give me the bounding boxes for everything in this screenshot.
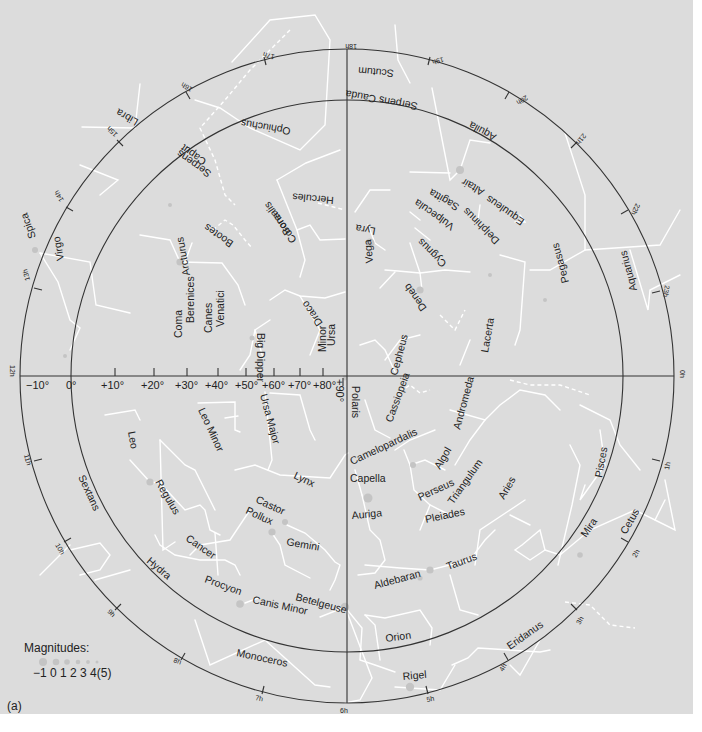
label-big-dipper: Big Dipper: [255, 333, 267, 383]
hour-5: 5h: [426, 695, 435, 703]
hour-1: 1h: [663, 461, 671, 470]
label-ursa-minor-2: Minor: [316, 325, 328, 352]
hour-6: 6h: [340, 707, 348, 714]
label-vega: Vega: [361, 239, 375, 264]
legend-dot-minus1: [39, 658, 47, 666]
label-capella: Capella: [350, 472, 386, 484]
dec-90: +90°: [334, 379, 346, 402]
label-polaris: Polaris: [350, 386, 362, 418]
dec-40: +40°: [205, 379, 228, 391]
legend-values: −1 0 1 2 3 4(5): [33, 666, 111, 680]
legend-dot-3: [86, 660, 90, 664]
dec-50: +50°: [235, 379, 258, 391]
dec-30: +30°: [175, 379, 198, 391]
label-canes-2: Venatici: [214, 290, 226, 327]
label-coma-2: Berenices: [184, 276, 196, 323]
hour-0: 0h: [679, 370, 686, 378]
dec-minus10: −10°: [26, 379, 49, 391]
legend-dot-0: [53, 659, 60, 666]
legend-dot-1: [64, 659, 70, 665]
label-coma-1: Coma: [172, 310, 184, 338]
hour-7: 7h: [255, 694, 264, 702]
dec-20: +20°: [141, 379, 164, 391]
legend-dot-2: [76, 660, 81, 665]
hour-12: 12h: [9, 365, 16, 377]
figure-label: (a): [7, 699, 22, 713]
star-chart: −10° 0° +10° +20° +30° +40° +50° +60° +7…: [0, 0, 702, 732]
label-canes-1: Canes: [202, 303, 214, 333]
dec-10: +10°: [101, 379, 124, 391]
legend-title: Magnitudes:: [24, 641, 89, 655]
dec-0: 0°: [66, 379, 77, 391]
label-rigel: Rigel: [402, 668, 427, 682]
hour-18: 18h: [345, 43, 357, 50]
dec-80: +80°: [313, 379, 336, 391]
legend-dot-4: [96, 661, 99, 664]
dec-70: +70°: [288, 379, 311, 391]
